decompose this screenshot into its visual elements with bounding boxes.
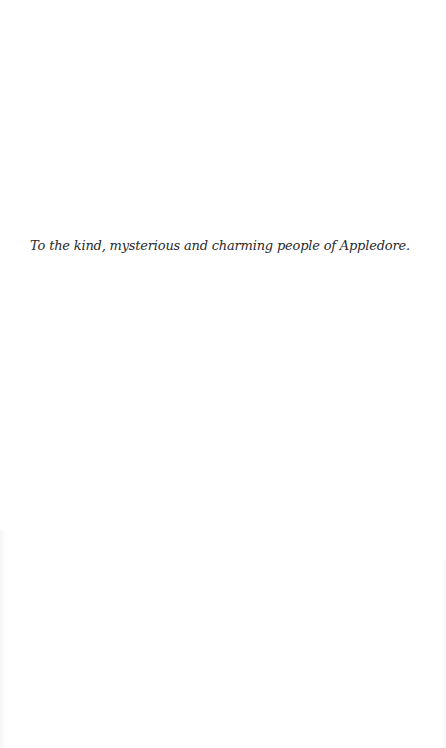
dedication-text: To the kind, mysterious and charming peo…: [0, 236, 440, 256]
scan-edge-left: [0, 530, 6, 748]
scan-edge-right: [441, 560, 446, 748]
book-page: To the kind, mysterious and charming peo…: [0, 0, 446, 748]
